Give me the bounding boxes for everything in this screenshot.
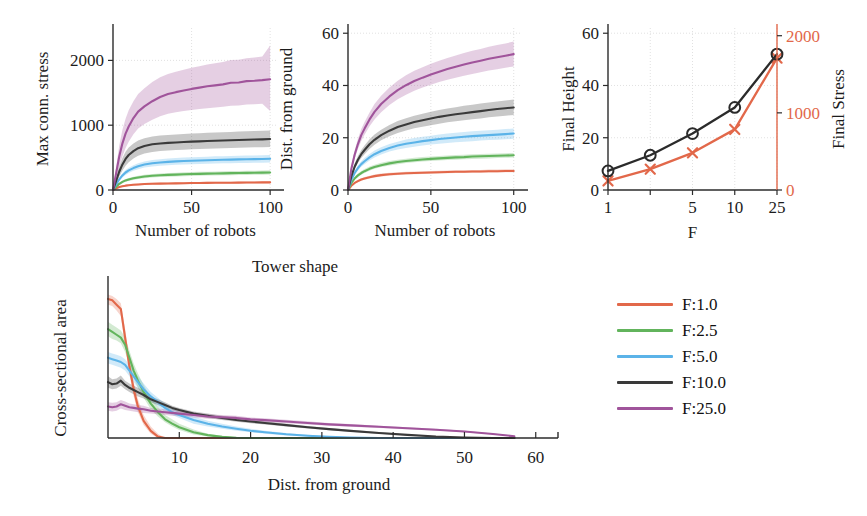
svg-text:Dist. from ground: Dist. from ground (268, 475, 391, 494)
svg-text:Number of robots: Number of robots (135, 221, 256, 240)
chart-max-conn-stress: 010002000050100Number of robotsMax conn.… (0, 0, 300, 250)
svg-text:1000: 1000 (786, 104, 820, 123)
legend-swatch-line-icon (617, 355, 673, 358)
svg-text:100: 100 (501, 198, 526, 217)
svg-text:20: 20 (242, 448, 259, 467)
legend-swatch-line-icon (617, 303, 673, 306)
svg-text:50: 50 (183, 198, 200, 217)
legend-item-label: F:5.0 (682, 348, 717, 365)
legend-item-label: F:2.5 (682, 322, 717, 339)
svg-text:0: 0 (96, 181, 105, 200)
legend-item-f5.0[interactable]: F:5.0 (617, 343, 726, 369)
chart-dist-from-ground: 0204060050100Number of robotsDist. from … (270, 0, 570, 250)
svg-text:0: 0 (109, 198, 118, 217)
svg-text:0: 0 (591, 181, 600, 200)
svg-text:60: 60 (322, 24, 339, 43)
svg-text:10: 10 (726, 198, 743, 217)
svg-text:Final Height: Final Height (559, 66, 578, 152)
svg-text:Number of robots: Number of robots (375, 221, 496, 240)
svg-text:Max conn. stress: Max conn. stress (33, 52, 52, 167)
svg-text:30: 30 (313, 448, 330, 467)
svg-text:Dist. from ground: Dist. from ground (277, 47, 296, 170)
svg-text:20: 20 (582, 129, 599, 148)
svg-text:50: 50 (456, 448, 473, 467)
svg-text:10: 10 (171, 448, 188, 467)
svg-text:Final Stress: Final Stress (829, 69, 848, 149)
legend-item-f1.0[interactable]: F:1.0 (617, 291, 726, 317)
svg-text:F: F (688, 223, 697, 242)
svg-text:2000: 2000 (70, 51, 104, 70)
panel-dist-from-ground: 0204060050100Number of robotsDist. from … (270, 0, 570, 250)
legend-item-f25.0[interactable]: F:25.0 (617, 395, 726, 421)
svg-text:40: 40 (322, 76, 339, 95)
chart-tower-shape: 102030405060Dist. from groundCross-secti… (30, 250, 590, 516)
chart-final-height-final-stress: 0204060010002000151025FFinal HeightFinal… (560, 0, 867, 250)
legend-item-f2.5[interactable]: F:2.5 (617, 317, 726, 343)
panel-final-height-stress: 0204060010002000151025FFinal HeightFinal… (560, 0, 867, 250)
legend-item-f10.0[interactable]: F:10.0 (617, 369, 726, 395)
svg-text:20: 20 (322, 129, 339, 148)
svg-text:Cross-sectional area: Cross-sectional area (51, 299, 70, 437)
svg-text:40: 40 (385, 448, 402, 467)
svg-text:0: 0 (786, 181, 795, 200)
legend-swatch-line-icon (617, 381, 673, 384)
svg-text:25: 25 (769, 198, 786, 217)
svg-text:Tower shape: Tower shape (252, 257, 338, 276)
legend-swatch-line-icon (617, 407, 673, 410)
svg-text:0: 0 (344, 198, 353, 217)
svg-text:5: 5 (688, 198, 697, 217)
svg-text:50: 50 (422, 198, 439, 217)
legend-item-label: F:1.0 (682, 296, 717, 313)
legend-item-label: F:25.0 (682, 400, 726, 417)
svg-text:0: 0 (331, 181, 340, 200)
legend-swatch-line-icon (617, 329, 673, 332)
svg-text:60: 60 (582, 24, 599, 43)
svg-text:60: 60 (527, 448, 544, 467)
svg-text:2000: 2000 (786, 27, 820, 46)
series-legend: F:1.0F:2.5F:5.0F:10.0F:25.0 (617, 291, 726, 421)
svg-text:1: 1 (604, 198, 613, 217)
legend-item-label: F:10.0 (682, 374, 726, 391)
panel-max-conn-stress: 010002000050100Number of robotsMax conn.… (0, 0, 300, 250)
svg-text:1000: 1000 (70, 116, 104, 135)
panel-tower-shape: 102030405060Dist. from groundCross-secti… (30, 250, 590, 516)
svg-text:40: 40 (582, 76, 599, 95)
